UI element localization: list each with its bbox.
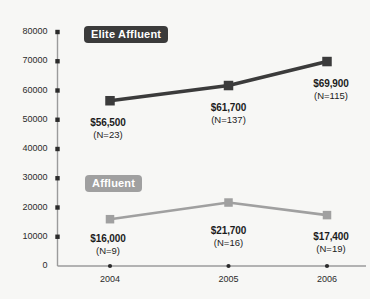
y-axis-tick-label: 20000 <box>0 202 48 212</box>
y-tick-mark <box>55 30 59 34</box>
y-axis-tick-label: 70000 <box>0 55 48 65</box>
y-tick-mark <box>55 88 59 92</box>
data-point-sample-size: (N=16) <box>184 237 274 249</box>
series-marker-affluent <box>106 215 115 224</box>
series-marker-affluent <box>323 211 332 220</box>
y-axis-tick-label: 30000 <box>0 172 48 182</box>
y-axis-tick-label: 10000 <box>0 231 48 241</box>
x-axis-tick-label: 2006 <box>297 274 357 284</box>
y-tick-mark <box>55 235 59 239</box>
data-point-value: $17,400 <box>286 231 370 243</box>
data-point-value: $56,500 <box>63 117 153 129</box>
y-axis-tick-label: 50000 <box>0 114 48 124</box>
y-tick-mark <box>55 147 59 151</box>
y-axis-tick-label: 60000 <box>0 85 48 95</box>
y-axis-tick-label: 80000 <box>0 26 48 36</box>
data-point-value: $61,700 <box>184 102 274 114</box>
x-axis-tick-label: 2004 <box>80 274 140 284</box>
data-point-label: $56,500(N=23) <box>63 117 153 141</box>
y-tick-mark <box>55 176 59 180</box>
data-point-label: $16,000(N=9) <box>63 233 153 257</box>
y-axis-tick-label: 0 <box>0 260 48 270</box>
legend-badge-elite-affluent: Elite Affluent <box>84 26 168 43</box>
data-point-label: $21,700(N=16) <box>184 225 274 249</box>
series-marker-affluent <box>224 198 233 207</box>
line-chart: 0100002000030000400005000060000700008000… <box>0 0 370 299</box>
x-axis-tick-label: 2005 <box>199 274 259 284</box>
data-point-sample-size: (N=9) <box>63 245 153 257</box>
y-tick-mark <box>55 205 59 209</box>
x-tick-mark <box>325 264 329 268</box>
x-tick-mark <box>226 264 230 268</box>
data-point-sample-size: (N=19) <box>286 243 370 255</box>
data-point-label: $69,900(N=115) <box>286 78 370 102</box>
data-point-sample-size: (N=115) <box>286 90 370 102</box>
x-tick-mark <box>108 264 112 268</box>
data-point-sample-size: (N=137) <box>184 114 274 126</box>
data-point-value: $21,700 <box>184 225 274 237</box>
data-point-value: $16,000 <box>63 233 153 245</box>
legend-badge-affluent: Affluent <box>85 175 142 192</box>
y-axis-tick-label: 40000 <box>0 143 48 153</box>
series-marker-elite-affluent <box>224 81 234 91</box>
series-marker-elite-affluent <box>105 96 115 106</box>
data-point-sample-size: (N=23) <box>63 129 153 141</box>
y-tick-mark <box>55 59 59 63</box>
series-marker-elite-affluent <box>322 57 332 66</box>
series-line-affluent <box>110 203 327 220</box>
data-point-value: $69,900 <box>286 78 370 90</box>
data-point-label: $17,400(N=19) <box>286 231 370 255</box>
y-tick-mark <box>55 118 59 122</box>
data-point-label: $61,700(N=137) <box>184 102 274 126</box>
